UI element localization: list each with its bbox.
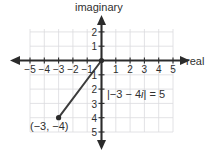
y-tick-label-2: 2 (87, 27, 97, 38)
equation-suffix: | = 5 (144, 88, 166, 100)
x-tick-label-3: 3 (137, 64, 151, 75)
modulus-equation-label: |−3 − 4i| = 5 (107, 89, 165, 100)
y-tick-label--3: 3 (87, 99, 97, 110)
complex-plane-figure: imaginary real |−3 − 4i| = 5 (−3, −4) −5… (0, 0, 215, 154)
y-tick-label--2: 2 (87, 84, 97, 95)
origin-point (99, 58, 104, 63)
real-axis-title: real (186, 56, 204, 67)
x-tick-label-4: 4 (152, 64, 166, 75)
y-tick-label--5: 5 (87, 127, 97, 138)
equation-prefix: |−3 − 4 (107, 88, 141, 100)
x-tick-label--5: −5 (23, 64, 37, 75)
x-tick-label--4: −4 (37, 64, 51, 75)
x-tick-label-5: 5 (166, 64, 180, 75)
x-tick-label--2: −2 (66, 64, 80, 75)
imaginary-axis-title: imaginary (75, 2, 123, 13)
y-tick-label-1: 1 (87, 41, 97, 52)
x-tick-label--3: −3 (52, 64, 66, 75)
complex-number-point-label: (−3, −4) (30, 121, 69, 132)
imaginary-axis (97, 15, 106, 150)
y-tick-label--4: 4 (87, 113, 97, 124)
y-tick-label--1: 1 (87, 70, 97, 81)
x-tick-label-2: 2 (123, 64, 137, 75)
x-tick-label-1: 1 (109, 64, 123, 75)
